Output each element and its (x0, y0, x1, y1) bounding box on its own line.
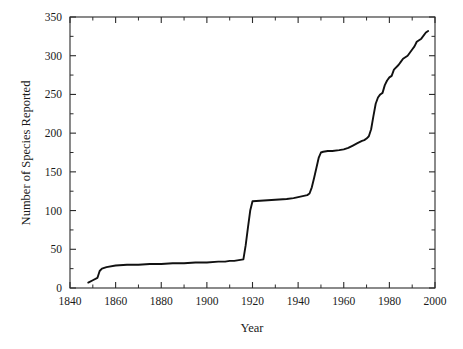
x-tick-label: 1980 (378, 295, 401, 307)
x-axis-tick-labels: 184018601880190019201940196019802000 (59, 295, 447, 307)
y-tick-label: 250 (45, 88, 63, 100)
chart-figure: 184018601880190019201940196019802000 050… (0, 0, 463, 349)
y-axis-title: Number of Species Reported (19, 80, 33, 226)
x-tick-label: 1960 (332, 295, 355, 307)
y-axis-ticks (70, 17, 435, 288)
x-tick-label: 1880 (150, 295, 173, 307)
plot-border (70, 17, 435, 288)
y-tick-label: 300 (45, 50, 63, 62)
plot-frame (70, 17, 435, 288)
x-tick-label: 1860 (104, 295, 127, 307)
x-tick-label: 1920 (241, 295, 264, 307)
x-tick-label: 1840 (59, 295, 82, 307)
series-line-cumulative-species (88, 31, 428, 283)
y-tick-label: 100 (45, 205, 63, 217)
y-tick-label: 150 (45, 166, 63, 178)
data-series-group (88, 31, 428, 283)
y-axis-tick-labels: 050100150200250300350 (45, 11, 63, 294)
x-tick-label: 1940 (287, 295, 310, 307)
species-cumulative-line-chart: 184018601880190019201940196019802000 050… (0, 0, 463, 349)
y-tick-label: 200 (45, 127, 63, 139)
y-tick-label: 0 (56, 282, 62, 294)
x-axis-ticks (70, 17, 435, 288)
x-tick-label: 1900 (195, 295, 218, 307)
y-tick-label: 350 (45, 11, 63, 23)
x-tick-label: 2000 (424, 295, 447, 307)
x-axis-title: Year (240, 321, 264, 335)
y-tick-label: 50 (51, 243, 63, 255)
